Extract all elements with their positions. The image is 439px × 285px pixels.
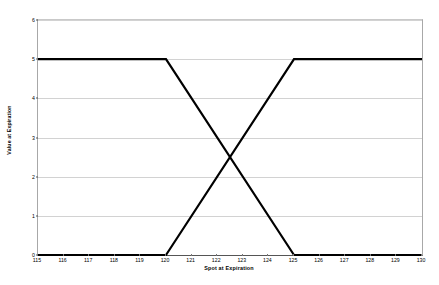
x-tick-label: 115 <box>33 257 41 263</box>
x-tick-mark <box>165 254 166 256</box>
x-tick-mark <box>267 254 268 256</box>
x-tick-mark <box>242 254 243 256</box>
series-layer <box>38 20 422 255</box>
x-tick-label: 122 <box>212 257 221 263</box>
x-tick-label: 130 <box>417 257 426 263</box>
x-tick-label: 125 <box>289 257 298 263</box>
x-tick-mark <box>88 254 89 256</box>
plot-area: 0123456 <box>37 19 423 256</box>
x-tick-label: 124 <box>263 257 272 263</box>
x-tick-label: 117 <box>84 257 92 263</box>
series-line-ascending-payoff <box>38 59 422 255</box>
x-tick-label: 119 <box>135 257 143 263</box>
y-axis-title-label: Value at Expiration <box>6 105 12 154</box>
x-tick-mark <box>63 254 64 256</box>
x-tick-mark <box>139 254 140 256</box>
x-tick-mark <box>421 254 422 256</box>
x-tick-mark <box>293 254 294 256</box>
x-tick-mark <box>370 254 371 256</box>
x-tick-label: 120 <box>161 257 170 263</box>
x-tick-label: 126 <box>314 257 323 263</box>
x-tick-mark <box>114 254 115 256</box>
x-tick-mark <box>395 254 396 256</box>
x-tick-label: 123 <box>237 257 246 263</box>
x-tick-mark <box>191 254 192 256</box>
x-tick-mark <box>319 254 320 256</box>
y-axis-title: Value at Expiration <box>0 0 18 260</box>
x-tick-mark <box>216 254 217 256</box>
x-tick-label: 118 <box>110 257 118 263</box>
x-tick-label: 127 <box>340 257 349 263</box>
x-tick-label: 128 <box>365 257 374 263</box>
x-axis-title: Spot at Expiration <box>37 265 421 271</box>
x-tick-mark <box>344 254 345 256</box>
chart-container: Value at Expiration 0123456 115116117118… <box>0 0 439 285</box>
x-tick-label: 129 <box>391 257 400 263</box>
x-tick-mark <box>37 254 38 256</box>
x-tick-label: 121 <box>186 257 195 263</box>
x-tick-label: 116 <box>58 257 66 263</box>
